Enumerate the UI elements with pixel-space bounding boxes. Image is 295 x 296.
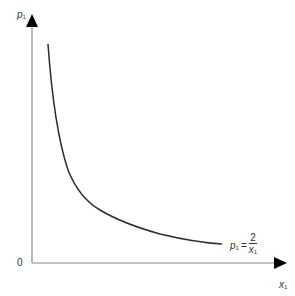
equation-equals: = xyxy=(241,240,247,251)
origin-label: 0 xyxy=(17,257,23,268)
demand-curve xyxy=(48,44,222,244)
equation-lhs: p1 xyxy=(230,240,239,251)
cutoff-header-text xyxy=(45,0,250,2)
equation-denominator: x1 xyxy=(249,244,257,258)
x-axis-label: x1 xyxy=(279,279,287,290)
y-axis-label: p1 xyxy=(17,9,26,20)
x-axis-arrow-icon xyxy=(274,257,287,269)
equation-fraction: 2 x1 xyxy=(249,232,257,258)
curve-equation-label: p1 = 2 x1 xyxy=(230,232,257,258)
y-axis-arrow-icon xyxy=(26,14,38,27)
equation-numerator: 2 xyxy=(249,232,257,244)
